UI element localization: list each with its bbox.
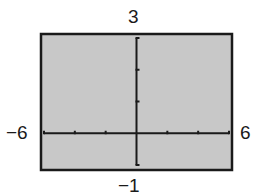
graphing-window (0, 0, 258, 195)
